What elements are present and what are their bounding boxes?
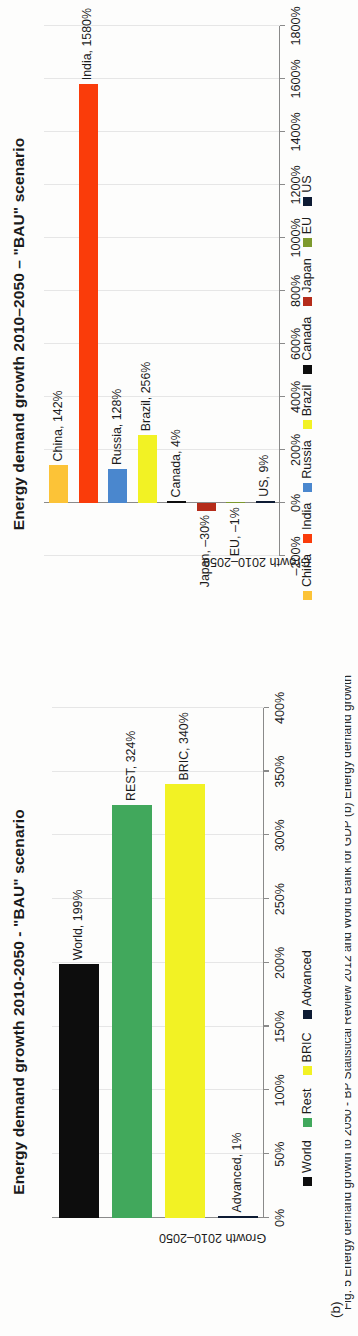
bar-value-label: Japan, –30% [198,515,212,587]
bar-russia [108,469,127,503]
bar-bric [165,785,205,1219]
x-axis-line [279,26,280,556]
x-axis-line [263,708,264,1218]
legend-label: Russia [300,440,314,479]
legend-swatch-icon [303,534,312,543]
legend-swatch-icon [303,483,312,492]
x-axis-tick-label: 350% [273,756,287,788]
x-axis-tick-mark [280,502,285,503]
legend-item-bric[interactable]: BRIC [300,1032,314,1075]
chart-panel-b: Energy demand growth 2010–2050 – "BAU" s… [0,0,358,668]
bar-eu [226,502,245,504]
bar-value-label: Canada, 4% [169,429,183,497]
x-axis-tick-mark [264,707,269,708]
legend-swatch-icon [303,591,312,600]
scanned-page: Energy demand growth 2010-2050 - "BAU" s… [0,0,358,1336]
x-axis-tick-label: 50% [273,1142,287,1167]
legend-label: World [300,1140,314,1173]
x-axis-tick-mark [264,1153,269,1154]
bar-world [59,964,99,1218]
x-axis-tick-label: 100% [273,1074,287,1106]
x-axis-tick-mark [264,898,269,899]
bar-value-label: Russia, 128% [110,389,124,465]
legend-item-advanced[interactable]: Advanced [300,950,314,1019]
chart-a-plot-area: World, 199%REST, 324%BRIC, 340%Advanced,… [52,708,264,1218]
legend-swatch-icon [303,197,312,206]
x-axis-tick-label: 1400% [289,112,303,151]
bar-value-label: REST, 324% [124,731,138,801]
legend-label: EU [300,217,314,235]
figure-caption-text: Fig. 5 Energy demand growth to 2050 - BP… [345,0,354,1336]
bar-value-label: China, 142% [51,390,65,461]
chart-a-title: Energy demand growth 2010-2050 - "BAU" s… [10,668,28,1336]
legend-swatch-icon [303,1118,312,1127]
x-axis-tick-label: 150% [273,1011,287,1043]
legend-label: Canada [300,317,314,361]
chart-b-legend: ChinaIndiaRussiaBrazilCanadaJapanEUUS [300,175,314,600]
x-axis-tick-label: 200% [273,947,287,979]
x-axis-tick-mark [280,184,285,185]
bar-us [256,501,275,503]
chart-b-y-axis-label: Growth 2010–2050 [203,555,310,569]
legend-swatch-icon [303,1066,312,1075]
legend-item-world[interactable]: World [300,1140,314,1186]
x-axis-tick-label: 1800% [289,6,303,45]
bar-canada [167,501,186,503]
bar-value-label: BRIC, 340% [177,712,191,780]
legend-swatch-icon [303,238,312,247]
legend-label: BRIC [300,1032,314,1062]
bar-value-label: Brazil, 256% [139,362,153,432]
bar-china [49,465,68,503]
legend-item-japan[interactable]: Japan [300,258,314,305]
x-axis-tick-label: 1600% [289,59,303,98]
legend-item-india[interactable]: India [300,503,314,543]
legend-item-china[interactable]: China [300,554,314,600]
legend-label: China [300,554,314,587]
gridline [52,707,264,708]
x-axis-tick-mark [280,131,285,132]
figure-sheet: Energy demand growth 2010-2050 - "BAU" s… [0,0,358,1336]
bar-rest [112,805,152,1218]
gridline [52,835,264,836]
legend-swatch-icon [303,1177,312,1186]
gridline [52,962,264,963]
chart-a-y-axis-label: Growth 2010–2050 [159,1231,266,1245]
legend-item-eu[interactable]: EU [300,217,314,248]
x-axis-tick-mark [280,237,285,238]
x-axis-tick-mark [280,396,285,397]
legend-label: Rest [300,1088,314,1114]
chart-a-legend: WorldRestBRICAdvanced [300,950,314,1186]
legend-label: India [300,503,314,530]
legend-item-brazil[interactable]: Brazil [300,385,314,430]
bar-value-label: Advanced, 1% [230,1133,244,1213]
bar-value-label: US, 9% [257,455,271,497]
x-axis-tick-mark [280,449,285,450]
bar-brazil [138,435,157,503]
x-axis-tick-mark [264,1025,269,1026]
x-axis-tick-mark [264,962,269,963]
legend-swatch-icon [303,1010,312,1019]
x-axis-tick-label: 400% [273,692,287,724]
x-axis-tick-mark [280,343,285,344]
x-axis-tick-label: 300% [273,819,287,851]
legend-swatch-icon [303,365,312,374]
x-axis-tick-mark [264,1089,269,1090]
legend-swatch-icon [303,420,312,429]
legend-item-canada[interactable]: Canada [300,317,314,374]
bar-japan [197,503,216,511]
legend-item-russia[interactable]: Russia [300,440,314,492]
x-axis-tick-mark [264,1217,269,1218]
bar-advanced [218,1216,258,1218]
x-axis-tick-mark [280,25,285,26]
x-axis-tick-mark [264,834,269,835]
legend-item-rest[interactable]: Rest [300,1088,314,1127]
x-axis-tick-label: 250% [273,883,287,915]
legend-label: US [300,175,314,193]
bar-india [79,84,98,503]
legend-item-us[interactable]: US [300,175,314,206]
chart-panel-a: Energy demand growth 2010-2050 - "BAU" s… [0,668,358,1336]
bar-value-label: EU, –1% [228,507,242,556]
x-axis-tick-mark [280,290,285,291]
chart-b-title: Energy demand growth 2010–2050 – "BAU" s… [10,0,28,668]
x-axis-tick-mark [264,770,269,771]
